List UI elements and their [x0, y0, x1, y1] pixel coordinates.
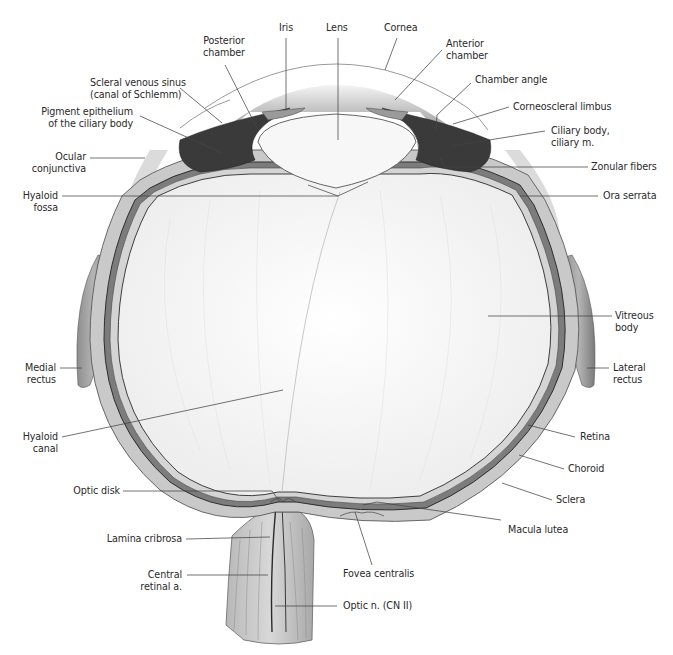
label-scleral-venous-sinus: Scleral venous sinus (canal of Schlemm) — [90, 77, 174, 101]
label-line: canal — [14, 443, 58, 455]
label-retina: Retina — [580, 431, 610, 443]
label-choroid: Choroid — [568, 463, 604, 475]
label-line: retinal a. — [130, 581, 182, 593]
label-lens: Lens — [326, 22, 348, 34]
label-iris: Iris — [279, 22, 293, 34]
label-chamber-angle: Chamber angle — [475, 74, 547, 86]
label-line: Ocular — [20, 151, 86, 163]
label-line: Central — [130, 569, 182, 581]
label-posterior-chamber: Posterior chamber — [203, 35, 245, 59]
label-fovea-centralis: Fovea centralis — [343, 568, 414, 580]
optic-nerve-shape — [226, 512, 314, 644]
label-line: Vitreous — [615, 310, 654, 322]
label-zonular-fibers: Zonular fibers — [591, 161, 657, 173]
label-line: Hyaloid — [16, 190, 58, 202]
label-line: Lateral — [613, 362, 646, 374]
label-line: Ciliary body, — [551, 125, 610, 137]
label-corneoscleral-limbus: Corneoscleral limbus — [513, 101, 611, 113]
label-line: body — [615, 322, 654, 334]
label-ocular-conjunctiva: Ocular conjunctiva — [20, 151, 86, 175]
eye-cross-section-diagram: Posterior chamber Iris Lens Cornea Anter… — [0, 0, 673, 655]
label-line: rectus — [14, 374, 56, 386]
label-line: Scleral venous sinus — [90, 77, 174, 89]
label-line: ciliary m. — [551, 137, 610, 149]
label-line: Anterior — [446, 38, 488, 50]
label-hyaloid-canal: Hyaloid canal — [14, 431, 58, 455]
label-line: Hyaloid — [14, 431, 58, 443]
vitreous-body-shape — [118, 173, 551, 498]
label-line: conjunctiva — [20, 163, 86, 175]
label-vitreous-body: Vitreous body — [615, 310, 654, 334]
label-line: Pigment epithelium — [40, 106, 133, 118]
label-line: rectus — [613, 374, 646, 386]
label-anterior-chamber: Anterior chamber — [446, 38, 488, 62]
label-line: (canal of Schlemm) — [90, 89, 174, 101]
label-lateral-rectus: Lateral rectus — [613, 362, 646, 386]
label-optic-nerve: Optic n. (CN II) — [343, 600, 412, 612]
label-macula-lutea: Macula lutea — [508, 524, 568, 536]
label-line: chamber — [446, 50, 488, 62]
label-line: Posterior — [203, 35, 245, 47]
label-ora-serrata: Ora serrata — [603, 190, 656, 202]
label-central-retinal-artery: Central retinal a. — [130, 569, 182, 593]
label-line: Medial — [14, 362, 56, 374]
label-ciliary-body: Ciliary body, ciliary m. — [551, 125, 610, 149]
label-line: chamber — [203, 47, 245, 59]
label-optic-disk: Optic disk — [60, 485, 120, 497]
label-hyaloid-fossa: Hyaloid fossa — [16, 190, 58, 214]
label-line: of the ciliary body — [40, 118, 133, 130]
label-sclera: Sclera — [556, 494, 585, 506]
label-medial-rectus: Medial rectus — [14, 362, 56, 386]
label-line: fossa — [16, 202, 58, 214]
label-lamina-cribrosa: Lamina cribrosa — [90, 533, 182, 545]
label-pigment-epithelium: Pigment epithelium of the ciliary body — [40, 106, 133, 130]
label-cornea: Cornea — [384, 22, 418, 34]
